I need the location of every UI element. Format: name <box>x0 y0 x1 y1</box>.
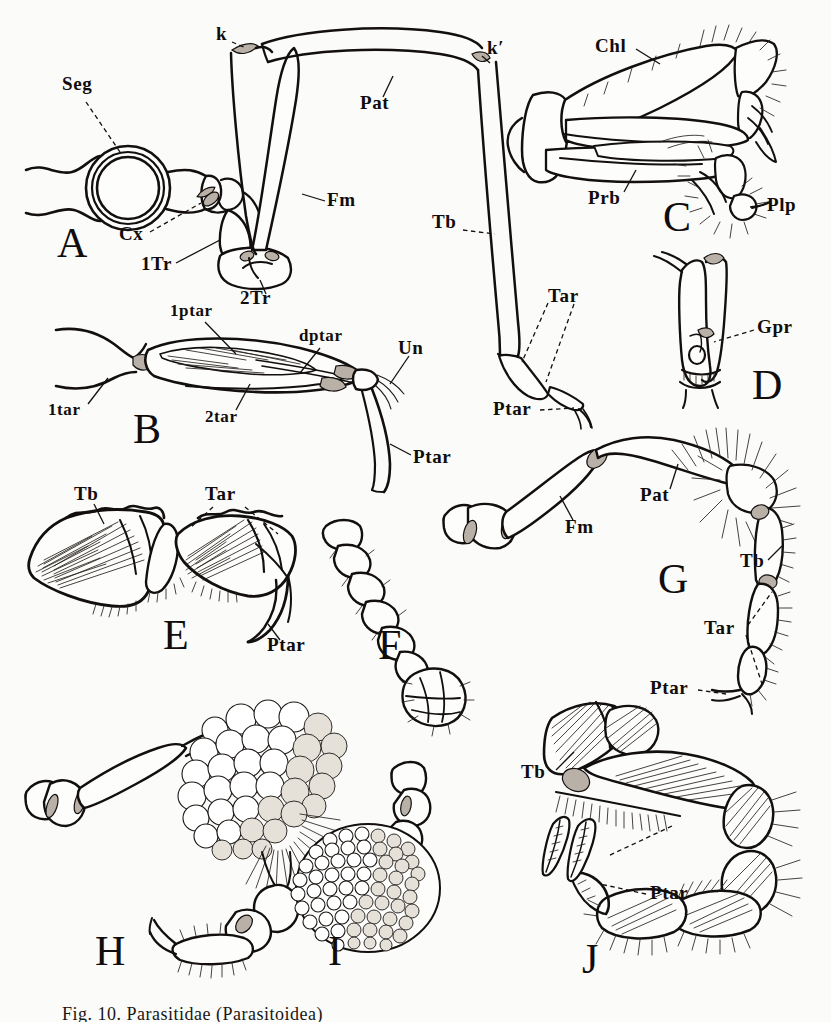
label-prb: Prb <box>588 188 620 207</box>
panel-d-artwork <box>654 252 727 408</box>
panel-j-artwork <box>543 702 802 955</box>
label-tb-e: Tb <box>74 484 98 503</box>
panel-letter-h: H <box>95 930 125 972</box>
label-ptar-b: Ptar <box>413 447 451 466</box>
label-k: k <box>216 24 227 43</box>
label-pat-g: Pat <box>640 485 669 504</box>
plate-artwork <box>0 0 831 1022</box>
panel-c-artwork <box>508 25 786 238</box>
label-1tr: 1Tr <box>141 254 172 273</box>
label-seg: Seg <box>62 74 92 93</box>
label-un: Un <box>398 338 424 357</box>
label-chl: Chl <box>595 36 626 55</box>
label-k-prime: k′ <box>487 38 504 57</box>
figure-plate: Seg Cx 1Tr 2Tr k k′ Pat Fm Tb Tar Ptar 1… <box>0 0 831 1022</box>
panel-letter-e: E <box>163 614 189 656</box>
label-2tar: 2tar <box>205 408 238 425</box>
label-plp: Plp <box>767 195 796 214</box>
label-pat-a: Pat <box>360 93 389 112</box>
label-1ptar: 1ptar <box>170 302 213 319</box>
label-dptar: dptar <box>299 327 343 344</box>
panel-letter-f: F <box>378 624 401 666</box>
label-ptar-j: Ptar <box>650 883 688 902</box>
panel-letter-c: C <box>663 196 691 238</box>
panel-g-artwork <box>443 428 800 714</box>
label-tb-j: Tb <box>521 762 545 781</box>
label-2tr: 2Tr <box>240 288 271 307</box>
panel-letter-a: A <box>57 222 87 264</box>
label-ptar-g: Ptar <box>650 678 688 697</box>
panel-letter-b: B <box>133 408 161 450</box>
label-tar-e: Tar <box>205 484 236 503</box>
panel-letter-j: J <box>582 938 598 980</box>
panel-letter-g: G <box>658 558 688 600</box>
label-tb-a: Tb <box>432 212 456 231</box>
label-gpr: Gpr <box>757 317 793 336</box>
label-fm-g: Fm <box>565 517 594 536</box>
figure-caption: Fig. 10. Parasitidae (Parasitoidea) <box>62 1004 323 1022</box>
panel-letter-d: D <box>752 364 782 406</box>
label-ptar-e: Ptar <box>267 635 305 654</box>
panel-letter-i: I <box>328 930 342 972</box>
label-ptar-a: Ptar <box>493 399 531 418</box>
label-fm-a: Fm <box>327 190 356 209</box>
label-cx: Cx <box>119 224 143 243</box>
label-tar-g: Tar <box>704 618 735 637</box>
label-1tar: 1tar <box>48 401 81 418</box>
panel-h-artwork <box>25 700 347 978</box>
label-tar-a: Tar <box>548 286 579 305</box>
egg-cluster-i <box>291 824 440 952</box>
label-tb-g: Tb <box>740 551 764 570</box>
